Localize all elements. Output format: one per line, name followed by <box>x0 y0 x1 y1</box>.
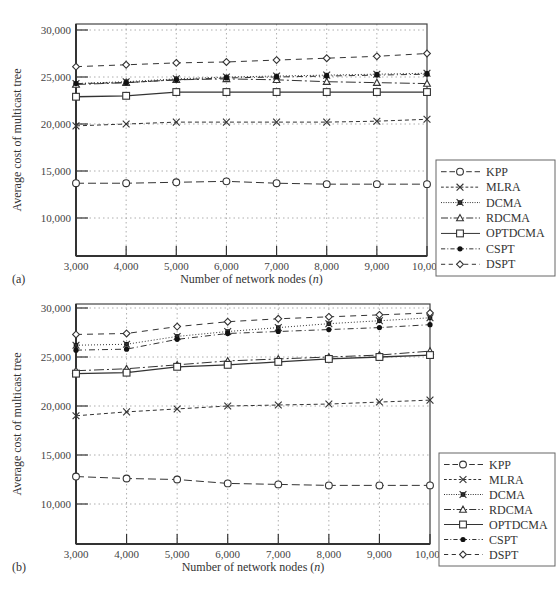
circle-marker <box>460 461 467 468</box>
circle-marker <box>73 180 80 187</box>
diamond-marker <box>174 323 181 330</box>
circle-marker <box>223 178 230 185</box>
x-tick-label: 7,000 <box>266 548 291 560</box>
legend-label: OPTDCMA <box>489 518 548 532</box>
y-tick-label: 30,000 <box>41 24 72 36</box>
circle-marker <box>173 179 180 186</box>
square-marker <box>376 354 383 361</box>
x-axis-title: Number of network nodes (n) <box>182 560 325 574</box>
legend: KPPMLRADCMARDCMAOPTDCMACSPTDSPT <box>436 160 555 276</box>
circle-marker <box>424 181 431 188</box>
legend-label: MLRA <box>489 473 524 487</box>
dot-marker <box>374 73 379 78</box>
dot-marker <box>377 325 382 330</box>
diamond-marker <box>123 330 130 337</box>
legend-label: DSPT <box>486 257 516 271</box>
dot-marker <box>274 74 279 79</box>
legend-label: DSPT <box>489 548 519 562</box>
square-marker <box>275 359 282 366</box>
x-axis: 3,0004,0005,0006,0007,0008,0009,00010,00… <box>64 246 443 286</box>
panel-label: (b) <box>12 560 26 574</box>
y-tick-label: 20,000 <box>41 400 72 412</box>
legend-label: RDCMA <box>489 503 533 517</box>
x-tick-label: 6,000 <box>215 548 240 560</box>
x-tick-label: 9,000 <box>367 548 392 560</box>
circle-marker <box>273 180 280 187</box>
x-axis-title: Number of network nodes (n) <box>180 272 323 286</box>
dot-marker <box>73 348 78 353</box>
dot-marker <box>427 322 432 327</box>
asterisk-marker <box>325 320 332 327</box>
figure: 10,00015,00020,00025,00030,000Average co… <box>0 0 558 596</box>
x-tick-label: 3,000 <box>64 260 89 272</box>
x-tick-label: 4,000 <box>114 548 139 560</box>
gridlines <box>76 24 427 256</box>
x-tick-label: 4,000 <box>114 260 139 272</box>
square-marker <box>123 369 130 376</box>
dot-marker <box>175 337 180 342</box>
diamond-marker <box>73 63 80 70</box>
circle-marker <box>323 181 330 188</box>
diamond-marker <box>373 53 380 60</box>
dot-marker <box>326 327 331 332</box>
diamond-marker <box>273 57 280 64</box>
legend-label: KPP <box>486 165 508 179</box>
y-tick-label: 20,000 <box>41 118 72 130</box>
plot-frame <box>76 304 430 544</box>
circle-marker <box>174 476 181 483</box>
x-tick-label: 8,000 <box>316 548 341 560</box>
y-tick-label: 25,000 <box>41 351 72 363</box>
circle-marker <box>73 473 80 480</box>
x-tick-label: 3,000 <box>64 548 89 560</box>
legend-label: DCMA <box>489 488 525 502</box>
chart-panel-b: 10,00015,00020,00025,00030,000Average co… <box>10 302 555 574</box>
series-kpp <box>73 178 431 188</box>
square-marker <box>174 363 181 370</box>
diamond-marker <box>325 313 332 320</box>
legend-label: RDCMA <box>486 211 530 225</box>
x-tick-label: 9,000 <box>364 260 389 272</box>
legend-label: DCMA <box>486 196 522 210</box>
circle-marker <box>376 482 383 489</box>
dot-marker <box>460 537 465 542</box>
circle-marker <box>123 180 130 187</box>
circle-marker <box>275 481 282 488</box>
square-marker <box>73 370 80 377</box>
x-tick-label: 5,000 <box>165 548 190 560</box>
x-tick-label: 5,000 <box>164 260 189 272</box>
x-axis: 3,0004,0005,0006,0007,0008,0009,00010,00… <box>64 534 446 574</box>
dot-marker <box>174 77 179 82</box>
square-marker <box>73 93 80 100</box>
y-tick-label: 15,000 <box>41 449 72 461</box>
legend-label: KPP <box>489 458 511 472</box>
dot-marker <box>124 347 129 352</box>
circle-marker <box>224 480 231 487</box>
square-marker <box>323 89 330 96</box>
legend: KPPMLRADCMARDCMAOPTDCMACSPTDSPT <box>439 453 555 566</box>
x-tick-label: 7,000 <box>264 260 289 272</box>
legend-label: CSPT <box>486 242 515 256</box>
y-axis-title: Average cost of multicast tree <box>10 68 24 211</box>
y-tick-label: 10,000 <box>41 212 72 224</box>
square-marker <box>325 356 332 363</box>
dot-marker <box>324 73 329 78</box>
x-marker <box>123 408 130 415</box>
diamond-marker <box>275 315 282 322</box>
circle-marker <box>373 181 380 188</box>
square-marker <box>123 92 130 99</box>
dot-marker <box>225 331 230 336</box>
dot-marker <box>424 72 429 77</box>
square-marker <box>424 89 431 96</box>
y-tick-label: 10,000 <box>41 498 72 510</box>
x-tick-label: 6,000 <box>214 260 239 272</box>
panel-label: (a) <box>12 272 25 286</box>
x-tick-label: 8,000 <box>314 260 339 272</box>
triangle-marker <box>373 79 380 85</box>
series-optdcma <box>73 89 431 101</box>
dot-marker <box>224 75 229 80</box>
series-optdcma <box>73 352 434 377</box>
dot-marker <box>124 80 129 85</box>
series-cspt <box>73 322 432 353</box>
gridlines <box>76 304 430 544</box>
diamond-marker <box>123 61 130 68</box>
